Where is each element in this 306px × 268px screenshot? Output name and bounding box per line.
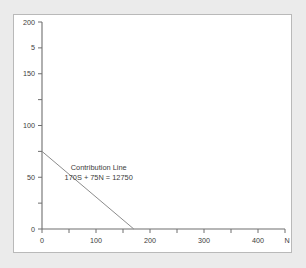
x-axis-tick-label: 100: [90, 236, 102, 245]
chart-figure: 05010015052000100200300400NContribution …: [13, 14, 292, 253]
y-axis-tick-label: 150: [23, 69, 35, 78]
annotation-equation: 170S + 75N = 12750: [65, 173, 133, 182]
x-axis-tick-label: 300: [198, 236, 210, 245]
x-axis-tick-label: 0: [40, 236, 44, 245]
annotation-title: Contribution Line: [71, 163, 127, 172]
y-axis-tick-label: 100: [23, 121, 35, 130]
y-axis-tick-label: 5: [31, 43, 35, 52]
x-axis-tick-label: 200: [144, 236, 156, 245]
y-axis-tick-label: 0: [31, 225, 35, 234]
x-axis-name-label: N: [284, 236, 289, 245]
x-axis-tick-label: 400: [252, 236, 264, 245]
y-axis-tick-label: 200: [23, 18, 35, 27]
chart-plot-area: 05010015052000100200300400NContribution …: [14, 15, 293, 254]
y-axis-tick-label: 50: [27, 173, 35, 182]
